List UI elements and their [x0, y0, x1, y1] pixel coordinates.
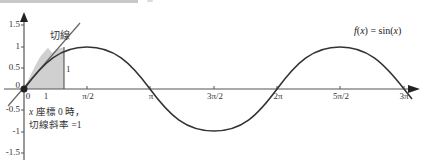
y-tick-label: 0.5	[0, 63, 20, 72]
y-axis-arrow	[20, 12, 28, 22]
tangent-label: 切線	[50, 31, 70, 41]
slope-note-line1: x 座標 0 時，	[29, 106, 85, 119]
x-tick-label: 1	[44, 92, 49, 101]
y-tick-label: -0.5	[0, 105, 20, 114]
slope-note-line2: 切線斜率 =1	[29, 119, 85, 132]
slope-note: x 座標 0 時， 切線斜率 =1	[29, 106, 85, 132]
y-tick-label: -1	[0, 127, 20, 136]
x-tick-label: π	[149, 92, 154, 101]
x-axis-arrow	[408, 85, 420, 93]
rise-label: 1	[66, 65, 71, 74]
x-tick-label: 5π/2	[333, 92, 349, 101]
x-tick-label: 3π/2	[207, 92, 223, 101]
x-tick-label: π/2	[82, 92, 94, 101]
y-tick-label: -1.5	[0, 148, 20, 157]
x-tick-label: 3π	[399, 92, 408, 101]
x-tick-label: 2π	[273, 92, 282, 101]
y-tick-label: 1.5	[0, 20, 20, 29]
function-label: f(x) = sin(x)	[354, 26, 401, 36]
x-tick-label: 0	[26, 92, 31, 101]
y-tick-label: 1	[0, 42, 20, 51]
y-tick-label: 0	[0, 81, 20, 90]
